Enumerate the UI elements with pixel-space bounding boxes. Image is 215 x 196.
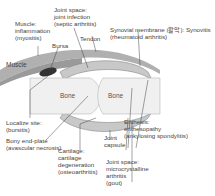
bony-end-plate-label: Bony end-plate (avascular necrosis) — [6, 137, 61, 151]
muscle-label: Muscle — [6, 61, 27, 68]
bursa-label: Bursa — [52, 42, 68, 49]
joint-capsule-label: Joint capsule — [104, 134, 125, 148]
bone-left-label: Bone — [60, 92, 75, 99]
enthesis-label: Enthesis: enthesopathy (ankylosing spond… — [124, 118, 188, 139]
joint-space-gout-label: Joint space: microcrystalline arthritis … — [106, 158, 149, 186]
bone-right-label: Bone — [108, 92, 123, 99]
muscle-inflammation-label: Muscle: inflammation (myositis) — [15, 20, 50, 41]
synovial-membrane-label: Synovial membrane (활막): Synovitis (rheum… — [110, 26, 211, 40]
localize-site-label: Localize site: (bursitis) — [6, 119, 42, 133]
cartilage-label: Cartilage: cartilage degeneration (osteo… — [58, 147, 98, 175]
joint-space-infection-label: Joint space: joint infection (septic art… — [54, 6, 96, 27]
tendon-label: Tendon — [80, 35, 100, 42]
